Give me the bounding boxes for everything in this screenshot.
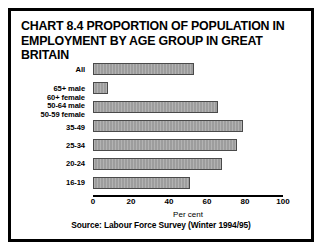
chart-card: CHART 8.4 PROPORTION OF POPULATION IN EM… (8, 8, 314, 242)
category-label-65plus: 65+ male 60+ female (11, 85, 85, 102)
chart-title-line-1: CHART 8.4 PROPORTION OF POPULATION IN (21, 19, 307, 34)
bars-area (93, 63, 283, 195)
category-label-20-24: 20-24 (11, 160, 85, 169)
x-tick-label: 80 (241, 197, 250, 206)
x-axis-tick-labels: 020406080100 (93, 197, 283, 209)
x-tick-label: 20 (127, 197, 136, 206)
category-label-all: All (11, 66, 85, 75)
category-label-35-49: 35-49 (11, 124, 85, 133)
category-label-16-19: 16-19 (11, 179, 85, 188)
x-tick-label: 40 (165, 197, 174, 206)
category-label-25-34: 25-34 (11, 142, 85, 151)
x-tick-label: 0 (91, 197, 95, 206)
chart-title: CHART 8.4 PROPORTION OF POPULATION IN EM… (21, 19, 307, 63)
source-note: Source: Labour Force Survey (Winter 1994… (11, 220, 311, 230)
bar-50-64 (93, 101, 218, 113)
category-label-50-64: 50-64 male 50-59 female (11, 102, 85, 119)
x-axis-title: Per cent (93, 210, 283, 219)
bar-25-34 (93, 139, 237, 151)
plot-region: All 65+ male 60+ female 50-64 male 50-59… (11, 63, 311, 205)
bar-20-24 (93, 158, 222, 170)
x-tick-label: 60 (203, 197, 212, 206)
bar-65plus (93, 82, 108, 94)
bar-16-19 (93, 177, 190, 189)
chart-title-line-2: EMPLOYMENT BY AGE GROUP IN GREAT BRITAIN (21, 34, 307, 63)
category-axis-labels: All 65+ male 60+ female 50-64 male 50-59… (11, 63, 85, 195)
x-tick-label: 100 (276, 197, 289, 206)
bar-all (93, 63, 194, 75)
bar-35-49 (93, 120, 243, 132)
